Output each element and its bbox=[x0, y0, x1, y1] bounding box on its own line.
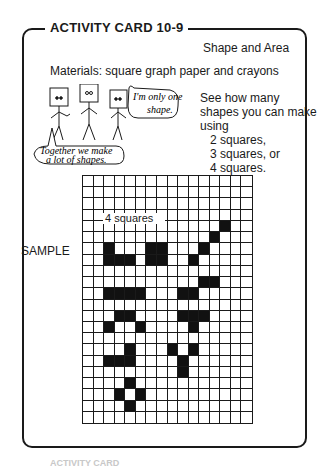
grid-cell bbox=[104, 232, 115, 243]
grid-cell bbox=[136, 266, 147, 277]
grid-cell-filled bbox=[125, 356, 136, 367]
grid-cell bbox=[168, 255, 179, 266]
grid-cell-filled bbox=[189, 288, 200, 299]
grid-cell bbox=[94, 401, 105, 412]
grid-cell bbox=[168, 356, 179, 367]
grid-cell bbox=[199, 322, 210, 333]
grid-cell bbox=[178, 187, 189, 198]
grid-cell bbox=[178, 344, 189, 355]
grid-cell bbox=[231, 232, 242, 243]
grid-cell bbox=[157, 198, 168, 209]
grid-cell bbox=[115, 378, 126, 389]
grid-cell bbox=[241, 187, 252, 198]
grid-cell bbox=[210, 266, 221, 277]
grid-cell bbox=[94, 187, 105, 198]
grid-cell bbox=[104, 198, 115, 209]
grid-cell bbox=[178, 221, 189, 232]
grid-cell-filled bbox=[210, 277, 221, 288]
grid-cell bbox=[199, 333, 210, 344]
grid-cell bbox=[168, 389, 179, 400]
grid-cell bbox=[157, 356, 168, 367]
grid-cell bbox=[83, 255, 94, 266]
grid-cell bbox=[168, 322, 179, 333]
grid-cell bbox=[115, 232, 126, 243]
grid-cell-filled bbox=[115, 389, 126, 400]
grid-cell bbox=[83, 367, 94, 378]
grid-cell bbox=[231, 221, 242, 232]
grid-cell bbox=[178, 389, 189, 400]
grid-cell bbox=[231, 367, 242, 378]
grid-cell bbox=[157, 288, 168, 299]
grid-cell bbox=[241, 322, 252, 333]
instructions-line2: shapes you can make bbox=[200, 105, 317, 119]
grid-cell-filled bbox=[125, 288, 136, 299]
grid-cell-filled bbox=[104, 356, 115, 367]
grid-cell bbox=[210, 412, 221, 423]
grid-cell bbox=[241, 210, 252, 221]
grid-cell bbox=[189, 277, 200, 288]
grid-cell-filled bbox=[115, 255, 126, 266]
grid-cell bbox=[168, 210, 179, 221]
grid-cell bbox=[231, 266, 242, 277]
grid-cell bbox=[220, 356, 231, 367]
grid-cell bbox=[231, 288, 242, 299]
grid-cell bbox=[241, 176, 252, 187]
grid-cell bbox=[210, 311, 221, 322]
grid-cell bbox=[94, 356, 105, 367]
grid-cell bbox=[220, 277, 231, 288]
grid-cell bbox=[210, 367, 221, 378]
grid-cell bbox=[231, 198, 242, 209]
grid-cell bbox=[83, 401, 94, 412]
grid-cell bbox=[241, 412, 252, 423]
sample-label: SAMPLE bbox=[21, 244, 70, 258]
grid-cell bbox=[189, 401, 200, 412]
grid-cell bbox=[83, 333, 94, 344]
grid-cell bbox=[241, 277, 252, 288]
grid-cell bbox=[168, 378, 179, 389]
grid-cell bbox=[210, 176, 221, 187]
grid-cell bbox=[241, 311, 252, 322]
grid-cell bbox=[241, 232, 252, 243]
grid-cell bbox=[210, 389, 221, 400]
grid-cell bbox=[157, 389, 168, 400]
grid-cell bbox=[168, 232, 179, 243]
grid-cell bbox=[199, 255, 210, 266]
grid-cell bbox=[178, 333, 189, 344]
grid-cell bbox=[178, 232, 189, 243]
grid-cell bbox=[199, 356, 210, 367]
grid-cell bbox=[136, 378, 147, 389]
grid-cell bbox=[241, 367, 252, 378]
grid-cell bbox=[241, 243, 252, 254]
grid-cell bbox=[83, 232, 94, 243]
speech-single-line2: shape. bbox=[147, 104, 173, 115]
grid-cell bbox=[231, 243, 242, 254]
grid-cell bbox=[231, 187, 242, 198]
grid-cell bbox=[94, 333, 105, 344]
grid-cell bbox=[94, 311, 105, 322]
grid-cell bbox=[220, 367, 231, 378]
grid-cell-filled bbox=[189, 322, 200, 333]
grid-cell bbox=[220, 389, 231, 400]
grid-cell bbox=[210, 356, 221, 367]
grid-cell bbox=[146, 187, 157, 198]
grid-cell bbox=[94, 198, 105, 209]
grid-cell bbox=[125, 232, 136, 243]
grid-cell bbox=[199, 378, 210, 389]
grid-cell bbox=[220, 378, 231, 389]
grid-cell bbox=[104, 266, 115, 277]
grid-cell-filled bbox=[199, 277, 210, 288]
grid-cell bbox=[231, 322, 242, 333]
grid-cell bbox=[199, 288, 210, 299]
grid-cell bbox=[189, 367, 200, 378]
grid-cell bbox=[115, 344, 126, 355]
grid-cell bbox=[210, 344, 221, 355]
grid-cell bbox=[178, 176, 189, 187]
grid-cell bbox=[189, 210, 200, 221]
grid-cell bbox=[136, 255, 147, 266]
grid-cell bbox=[125, 389, 136, 400]
grid-cell bbox=[231, 412, 242, 423]
grid-cell bbox=[241, 401, 252, 412]
grid-cell bbox=[231, 300, 242, 311]
grid-cell bbox=[178, 277, 189, 288]
grid-cell-filled bbox=[136, 322, 147, 333]
